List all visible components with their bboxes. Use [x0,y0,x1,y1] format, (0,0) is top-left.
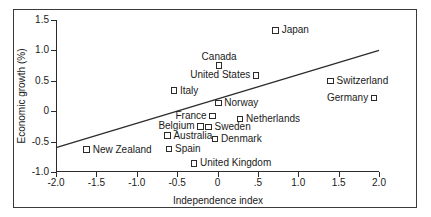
y-tick-label: -0.5 [32,137,49,147]
data-point-label: Norway [224,98,258,108]
square-marker-icon [171,87,177,93]
x-axis-title: Independence index [173,196,263,206]
y-tick [51,50,56,51]
scatter-chart-figure: Economic growth (%) Independence index 1… [0,0,431,217]
plot-area: 1.51.00.50-0.5-1.0 -2.0-1.5-1.0-0.50.51.… [56,20,379,172]
y-tick-label: 0.5 [35,76,49,86]
data-point-label: United Kingdom [200,158,271,168]
square-marker-icon [253,72,259,78]
x-tick-label: -1.5 [88,178,105,188]
square-marker-icon [327,78,333,84]
square-marker-icon [166,146,172,152]
data-point-label: Australia [173,131,212,141]
data-point-label: New Zealand [93,145,152,155]
y-tick-label: -1.0 [32,167,49,177]
data-point-label: Italy [180,86,198,96]
x-tick-label: 1.0 [291,178,305,188]
square-marker-icon [212,136,218,142]
y-tick [51,142,56,143]
data-point-label: United States [190,70,250,80]
x-tick-label: 0 [215,178,221,188]
data-point-label: Netherlands [246,114,300,124]
square-marker-icon [371,95,377,101]
square-marker-icon [215,100,221,106]
square-marker-icon [209,113,215,119]
data-point-label: Japan [282,25,309,35]
square-marker-icon [216,62,222,68]
square-marker-icon [83,146,89,152]
data-point-label: Sweden [215,122,251,132]
x-tick-label: -0.5 [169,178,186,188]
data-point-label: Germany [327,93,368,103]
y-axis-title: Economic growth (%) [17,48,27,143]
data-point-label: Denmark [221,134,262,144]
square-marker-icon [191,160,197,166]
y-tick [51,81,56,82]
square-marker-icon [272,27,278,33]
x-tick-label: 1.5 [332,178,346,188]
y-tick-label: 0 [43,106,49,116]
square-marker-icon [164,132,170,138]
x-tick-label: .5 [254,178,262,188]
x-tick-label: -2.0 [47,178,64,188]
square-marker-icon [197,123,203,129]
data-point-label: Switzerland [337,76,389,86]
y-tick-label: 1.5 [35,15,49,25]
x-tick-label: 2.0 [372,178,386,188]
y-tick-label: 1.0 [35,45,49,55]
data-point-label: Canada [202,52,237,62]
x-tick-label: -1.0 [128,178,145,188]
data-point-label: Spain [175,144,201,154]
y-tick [51,111,56,112]
y-tick [51,20,56,21]
